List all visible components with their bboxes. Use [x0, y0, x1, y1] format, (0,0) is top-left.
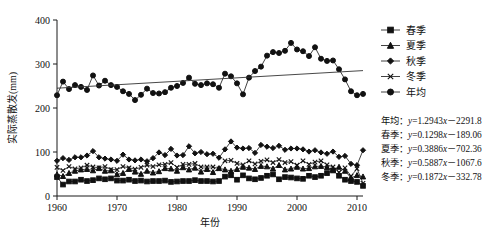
marker-square	[295, 176, 300, 181]
marker-circle	[61, 79, 66, 84]
equation-年均: 年均：y=1.2943x－2291.8	[381, 115, 482, 126]
marker-square	[73, 179, 78, 184]
marker-square	[61, 182, 66, 187]
marker-diamond	[264, 144, 269, 149]
marker-diamond	[102, 156, 107, 161]
marker-circle	[331, 58, 336, 63]
marker-triangle	[318, 163, 323, 168]
marker-circle	[193, 81, 198, 86]
marker-circle	[235, 81, 240, 86]
marker-circle	[319, 56, 324, 61]
marker-square	[325, 171, 330, 176]
marker-triangle	[66, 170, 71, 175]
marker-square	[193, 178, 198, 183]
legend-item-夏季: 夏季	[381, 40, 426, 51]
marker-square	[181, 179, 186, 184]
marker-triangle	[222, 167, 227, 172]
marker-square	[79, 177, 84, 182]
marker-circle	[127, 91, 132, 96]
marker-square	[289, 175, 294, 180]
marker-circle	[187, 75, 192, 80]
marker-diamond	[132, 158, 137, 163]
marker-square	[85, 179, 90, 184]
marker-diamond	[216, 155, 221, 160]
marker-circle	[211, 82, 216, 87]
marker-square	[307, 173, 312, 178]
y-axis-title: 实际蒸散发(mm)	[6, 72, 19, 144]
marker-circle	[355, 93, 360, 98]
legend-item-春季: 春季	[381, 25, 426, 36]
marker-diamond	[108, 157, 113, 162]
marker-circle	[145, 86, 150, 91]
y-tick-label: 400	[35, 15, 50, 26]
marker-triangle	[114, 172, 119, 177]
marker-square	[343, 177, 348, 182]
legend-label-春季: 春季	[406, 25, 426, 36]
marker-circle	[91, 73, 96, 78]
legend-item-年均: 年均	[381, 86, 426, 98]
marker-x	[271, 160, 275, 164]
marker-circle	[343, 77, 348, 82]
marker-circle	[295, 47, 300, 52]
marker-circle	[361, 91, 366, 96]
marker-square	[175, 179, 180, 184]
marker-triangle	[120, 170, 125, 175]
y-tick-label: 0	[45, 191, 50, 202]
marker-circle	[241, 92, 246, 97]
marker-diamond	[306, 149, 311, 154]
x-tick-label: 2010	[347, 202, 367, 213]
marker-square	[253, 177, 258, 182]
marker-circle	[103, 78, 108, 83]
marker-triangle	[210, 170, 215, 175]
marker-square	[199, 179, 204, 184]
marker-circle	[163, 90, 168, 95]
marker-diamond	[204, 152, 209, 157]
marker-circle	[325, 58, 330, 63]
marker-square	[277, 177, 282, 182]
marker-square	[103, 177, 108, 182]
marker-square	[139, 178, 144, 183]
marker-square	[121, 178, 126, 183]
marker-diamond	[78, 155, 83, 160]
marker-triangle	[150, 170, 155, 175]
marker-square	[271, 172, 276, 177]
x-tick-label: 1980	[167, 202, 187, 213]
marker-square	[259, 176, 264, 181]
series-line-年均	[57, 43, 363, 100]
marker-square	[265, 173, 270, 178]
marker-x	[301, 159, 305, 163]
marker-circle	[217, 85, 222, 90]
marker-circle	[313, 45, 318, 50]
marker-diamond	[72, 155, 77, 160]
marker-square	[217, 179, 222, 184]
marker-circle	[157, 91, 162, 96]
marker-diamond	[210, 151, 215, 156]
marker-circle	[133, 98, 138, 103]
marker-square	[133, 179, 138, 184]
marker-square	[127, 177, 132, 182]
marker-circle	[388, 89, 394, 95]
marker-diamond	[288, 146, 293, 151]
marker-square	[388, 27, 394, 33]
marker-diamond	[324, 151, 329, 156]
marker-diamond	[66, 157, 71, 162]
x-axis-title: 年份	[200, 216, 220, 228]
marker-circle	[139, 92, 144, 97]
evapotranspiration-trend-figure: 0100200300400196019701980199020002010年份实…	[0, 0, 498, 232]
marker-square	[205, 179, 210, 184]
marker-circle	[151, 91, 156, 96]
marker-square	[91, 178, 96, 183]
legend-label-年均: 年均	[406, 86, 426, 98]
regression-equations: 年均：y=1.2943x－2291.8春季：y=0.1298x－189.06夏季…	[381, 115, 482, 182]
marker-square	[67, 179, 72, 184]
marker-circle	[85, 87, 90, 92]
marker-square	[187, 179, 192, 184]
marker-diamond	[300, 147, 305, 152]
marker-triangle	[186, 167, 191, 172]
marker-diamond	[270, 145, 275, 150]
equation-夏季: 夏季：y=0.3886x－702.36	[381, 143, 482, 154]
marker-circle	[349, 89, 354, 94]
y-tick-label: 200	[35, 103, 50, 114]
marker-square	[235, 177, 240, 182]
marker-circle	[289, 40, 294, 45]
